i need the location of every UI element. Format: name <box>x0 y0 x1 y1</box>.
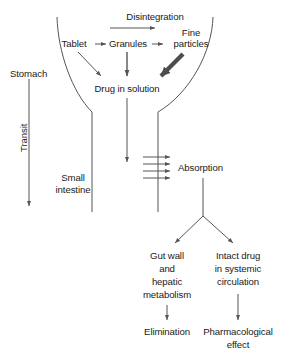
label-small-intestine-line2: intestine <box>56 184 91 196</box>
label-fine-particles-line1: Fine <box>182 27 200 39</box>
label-intact-drug-line1: Intact drug <box>216 250 260 262</box>
label-small-intestine-line1: Small <box>61 172 85 184</box>
label-gut-wall-line3: hepatic <box>152 276 182 288</box>
absorption-split-lines <box>175 178 233 243</box>
fine-particles-to-solution-arrow <box>161 54 183 76</box>
label-intact-drug-line2: in systemic <box>215 263 261 275</box>
label-transit: Transit <box>18 124 30 152</box>
label-intact-drug-line3: circulation <box>217 276 259 288</box>
label-tablet: Tablet <box>62 38 87 50</box>
diagram-linework <box>0 0 290 358</box>
label-pharmacological-line2: effect <box>227 339 250 351</box>
label-absorption: Absorption <box>178 162 223 174</box>
small-intestine-outline <box>92 112 158 212</box>
label-drug-in-solution: Drug in solution <box>94 83 159 95</box>
tablet-to-solution-arrow <box>78 52 101 76</box>
label-fine-particles-line2: particles <box>174 38 209 50</box>
label-pharmacological-line1: Pharmacological <box>203 326 272 338</box>
label-elimination: Elimination <box>144 326 190 338</box>
label-granules: Granules <box>109 38 147 50</box>
label-gut-wall-line4: metabolism <box>143 289 191 301</box>
label-disintegration: Disintegration <box>126 11 183 23</box>
absorption-flux-arrows <box>143 157 170 178</box>
label-stomach: Stomach <box>10 68 47 80</box>
gi-absorption-diagram: Disintegration Tablet Granules Fine part… <box>0 0 290 358</box>
label-gut-wall-line2: and <box>159 263 175 275</box>
label-gut-wall-line1: Gut wall <box>150 250 184 262</box>
